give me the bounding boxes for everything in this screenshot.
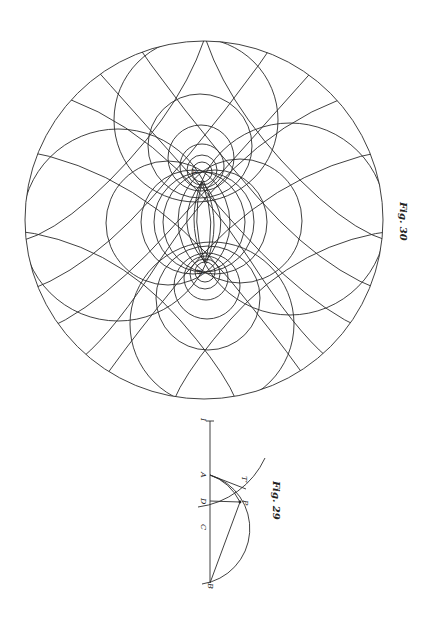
figure-30: A B Fig. 30	[0, 20, 430, 430]
pole-label-A: A	[190, 168, 199, 175]
fig29-caption: Fig. 29	[271, 480, 282, 520]
outer-circle	[25, 41, 383, 399]
fig30-caption: Fig. 30	[398, 201, 409, 241]
label-C: C	[199, 524, 208, 530]
pole-label-B: B	[195, 268, 204, 275]
label-P: P	[241, 499, 250, 506]
label-D: D	[199, 497, 208, 505]
diagonal-arcs-2	[0, 20, 400, 430]
circles-through-A-and-B	[22, 123, 386, 321]
plate: A B Fig. 30 I A D C B P T′ Fig. 29	[0, 0, 437, 619]
diagonal-arcs-1	[10, 20, 430, 430]
point-P	[239, 501, 242, 504]
arc-AB	[202, 475, 250, 584]
label-A: A	[199, 471, 208, 478]
figure-29: I A D C B P T′ Fig. 29	[198, 417, 282, 589]
segment-PB	[210, 502, 240, 583]
segment-DP	[210, 501, 240, 502]
circle-net	[0, 20, 430, 430]
label-T-prime: T′	[240, 476, 249, 483]
label-B: B	[206, 582, 215, 589]
arc-AP	[210, 475, 240, 502]
